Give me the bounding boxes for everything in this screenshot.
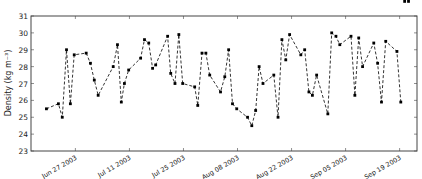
data-point <box>235 107 238 110</box>
data-point <box>299 53 302 56</box>
data-point <box>399 101 402 104</box>
data-point <box>57 102 60 105</box>
data-point <box>97 94 100 97</box>
data-point <box>272 74 275 77</box>
data-point <box>372 42 375 45</box>
data-point <box>281 38 284 41</box>
y-tick-label: 29 <box>18 46 28 55</box>
data-point <box>208 74 211 77</box>
data-point <box>219 91 222 94</box>
data-point <box>177 33 180 36</box>
data-point <box>45 107 48 110</box>
data-point <box>288 33 291 36</box>
data-point <box>407 0 410 3</box>
y-tick-label: 26 <box>18 96 28 105</box>
data-point <box>330 31 333 34</box>
data-point <box>396 50 399 53</box>
data-point <box>284 58 287 61</box>
data-point <box>73 53 76 56</box>
data-point <box>139 57 142 60</box>
data-point <box>85 52 88 55</box>
y-tick-label: 27 <box>18 80 28 89</box>
data-point <box>69 102 72 105</box>
data-point <box>112 65 115 68</box>
data-point <box>277 116 280 119</box>
data-point <box>147 42 150 45</box>
data-point <box>254 109 257 112</box>
data-point <box>376 62 379 65</box>
data-point <box>116 43 119 46</box>
data-point <box>353 94 356 97</box>
data-point <box>120 101 123 104</box>
data-point <box>303 48 306 51</box>
data-point <box>143 38 146 41</box>
data-point <box>311 94 314 97</box>
y-tick-label: 25 <box>18 113 28 122</box>
data-point <box>193 85 196 88</box>
y-tick-label: 28 <box>18 63 28 72</box>
data-point <box>196 104 199 107</box>
x-tick-label: Aug 08 2003 <box>200 154 240 179</box>
data-point <box>61 116 64 119</box>
data-point <box>89 62 92 65</box>
data-point <box>123 82 126 85</box>
y-tick-label: 24 <box>18 130 28 139</box>
data-point <box>174 82 177 85</box>
data-point <box>169 72 172 75</box>
x-tick-label: Sep 19 2003 <box>363 154 403 179</box>
x-tick-label: Jul 11 2003 <box>96 154 133 179</box>
data-point <box>258 65 261 68</box>
data-point <box>384 40 387 43</box>
data-point <box>315 74 318 77</box>
data-point <box>154 64 157 67</box>
data-point <box>223 75 226 78</box>
data-point <box>403 0 406 3</box>
data-point <box>65 48 68 51</box>
data-point <box>357 37 360 40</box>
y-tick-label: 30 <box>18 29 28 38</box>
y-tick-label: 23 <box>18 147 28 156</box>
data-point <box>227 48 230 51</box>
data-point <box>326 112 329 115</box>
data-point <box>93 79 96 82</box>
data-point <box>246 116 249 119</box>
data-point <box>262 82 265 85</box>
data-point <box>308 91 311 94</box>
x-tick-label: Aug 22 2003 <box>254 154 294 179</box>
x-tick-label: Jul 25 2003 <box>150 154 187 179</box>
x-tick-label: Jun 27 2003 <box>40 154 79 179</box>
data-point <box>361 65 364 68</box>
data-point <box>151 67 154 70</box>
data-point <box>250 124 253 127</box>
data-point <box>201 52 204 55</box>
density-time-series-chart: 232425262728293031 Jun 27 2003Jul 11 200… <box>0 0 422 179</box>
data-point <box>335 35 338 38</box>
data-point <box>338 43 341 46</box>
data-point <box>204 52 207 55</box>
y-axis-label: Density (kg m⁻³) <box>4 50 13 117</box>
plot-area <box>31 16 417 151</box>
data-point <box>380 101 383 104</box>
data-point <box>350 35 353 38</box>
data-point <box>231 102 234 105</box>
y-tick-label: 31 <box>18 12 28 21</box>
x-tick-label: Sep 05 2003 <box>309 154 349 179</box>
data-point <box>181 82 184 85</box>
data-point <box>166 35 169 38</box>
data-point <box>127 69 130 72</box>
